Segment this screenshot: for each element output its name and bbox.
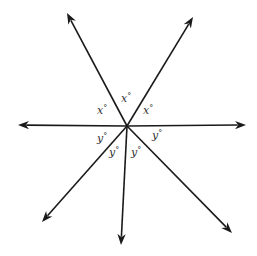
angle-label-y-right: y° (151, 128, 162, 142)
ray-lower-right (127, 126, 226, 227)
ray-bottom (121, 126, 127, 237)
arrowhead-icon (184, 17, 193, 29)
angle-label-x-top: x° (121, 91, 131, 105)
ray-right (127, 125, 238, 126)
angle-diagram: x° x° x° y° y° y° y° (0, 0, 257, 256)
angle-label-x-right: x° (143, 103, 153, 117)
ray-left (26, 125, 127, 126)
rays-group (18, 13, 246, 245)
angle-label-y-lower-left: y° (108, 145, 119, 159)
ray-lower-left (47, 126, 127, 216)
angle-label-x-left: x° (97, 103, 107, 117)
angle-label-y-left: y° (96, 131, 107, 145)
ray-upper-right (127, 24, 189, 126)
angle-label-y-lower-right: y° (130, 145, 141, 159)
